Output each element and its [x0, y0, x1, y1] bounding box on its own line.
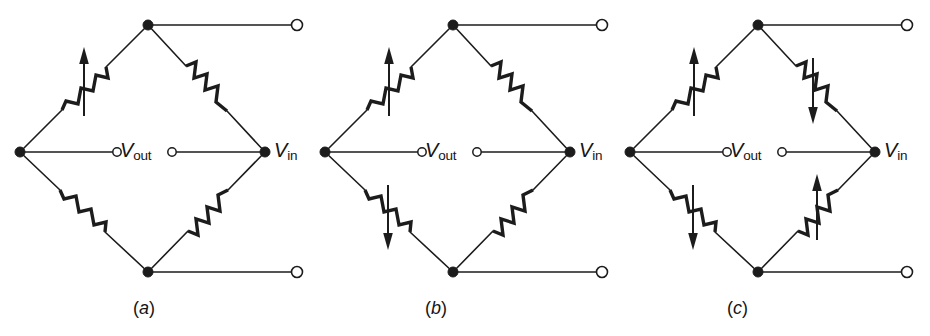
panel-a-vout-terminal-right[interactable] [168, 148, 176, 156]
panel-b-node-bottom [448, 267, 458, 277]
panel-a-arm-top-right [148, 25, 265, 152]
panel-a-node-bottom [143, 267, 153, 277]
panel-b-gauge-arrow-top-left [384, 47, 394, 116]
panel-b-node-right [565, 147, 575, 157]
panel-c-node-right [870, 147, 880, 157]
panel-c-node-bottom [753, 267, 763, 277]
panel-b-circuit [320, 20, 608, 278]
panel-a-node-top [143, 20, 153, 30]
panel-b-node-left [320, 147, 330, 157]
panel-b-arm-top-left [325, 25, 453, 152]
circuit-canvas [0, 0, 930, 336]
panel-c-node-left [625, 147, 635, 157]
panel-c-terminal-top[interactable] [902, 20, 913, 31]
panel-b-terminal-top[interactable] [597, 20, 608, 31]
panel-c-circuit [625, 20, 913, 278]
panel-c-vout-label: Vout [730, 139, 761, 162]
panel-a-arm-top-left [20, 25, 148, 152]
panel-b-vout-label: Vout [425, 139, 456, 162]
panel-a-terminal-bottom[interactable] [292, 267, 303, 278]
panel-b-arm-bottom-right [453, 152, 570, 272]
panel-b-node-top [448, 20, 458, 30]
panel-a-caption: (a) [133, 298, 155, 319]
panel-c-arm-top-right [758, 25, 875, 152]
panel-c-arm-bottom-right [758, 152, 875, 272]
panel-a-vin-label: Vin [274, 139, 297, 162]
panel-b-gauge-arrow-bottom-left [383, 185, 393, 250]
panel-c-terminal-bottom[interactable] [902, 267, 913, 278]
panel-c-node-top [753, 20, 763, 30]
panel-a-node-right [260, 147, 270, 157]
panel-c-vout-terminal-right[interactable] [778, 148, 786, 156]
panel-a-node-left [15, 147, 25, 157]
panel-b-vout-terminal-right[interactable] [473, 148, 481, 156]
panel-a-vout-label: Vout [120, 139, 151, 162]
panel-b-vin-label: Vin [579, 139, 602, 162]
panel-c-arm-top-left [630, 25, 758, 152]
panel-c-gauge-arrow-bottom-left [688, 185, 698, 250]
panel-c-vin-label: Vin [884, 139, 907, 162]
strain-gauge-bridge-figure: Vout Vin (a) Vout Vin (b) Vout Vin (c) [0, 0, 930, 336]
panel-c-caption: (c) [727, 298, 748, 319]
panel-b-caption: (b) [425, 298, 447, 319]
panel-b-arm-bottom-left [325, 152, 453, 272]
panel-a-circuit [15, 20, 303, 278]
panel-a-gauge-arrow-top-left [79, 47, 89, 116]
panel-b-arm-top-right [453, 25, 570, 152]
panel-b-terminal-bottom[interactable] [597, 267, 608, 278]
panel-a-arm-bottom-right [148, 152, 265, 272]
panel-a-terminal-top[interactable] [292, 20, 303, 31]
panel-a-arm-bottom-left [20, 152, 148, 272]
panel-c-gauge-arrow-top-left [689, 47, 699, 116]
panel-c-arm-bottom-left [630, 152, 758, 272]
